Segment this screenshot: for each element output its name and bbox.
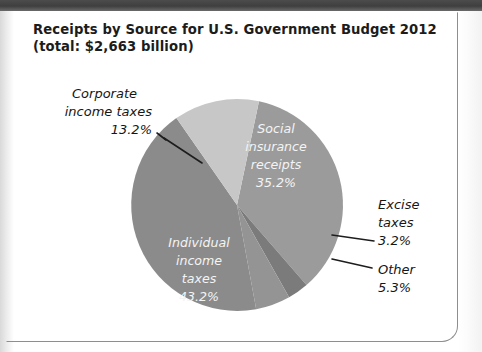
individual-income-value: 43.2% [179, 289, 219, 304]
social-insurance-line-2: insurance [245, 139, 307, 154]
individual-income-line-2: income [176, 253, 222, 268]
individual-income-line-1: Individual [168, 235, 230, 250]
corporate-income-value: 13.2% [111, 122, 152, 137]
pie-chart-svg: Social insurance receipts 35.2% Individu… [0, 0, 482, 352]
other-leader-line [332, 259, 372, 268]
label-other: Other 5.3% [332, 259, 417, 295]
social-insurance-line-1: Social [257, 121, 295, 136]
corporate-income-line-2: income taxes [65, 104, 153, 119]
figure-page: Receipts by Source for U.S. Government B… [0, 0, 482, 352]
individual-income-line-3: taxes [182, 271, 217, 286]
excise-taxes-line-2: taxes [378, 215, 414, 230]
other-value: 5.3% [378, 280, 411, 295]
corporate-income-line-1: Corporate [72, 86, 137, 101]
pie-chart: Social insurance receipts 35.2% Individu… [0, 0, 482, 352]
label-excise-taxes: Excise taxes 3.2% [332, 197, 419, 248]
excise-taxes-leader-line [332, 235, 374, 241]
excise-taxes-line-1: Excise [378, 197, 419, 212]
social-insurance-line-3: receipts [251, 157, 302, 172]
excise-taxes-value: 3.2% [378, 233, 411, 248]
other-line-1: Other [378, 262, 417, 277]
social-insurance-value: 35.2% [256, 175, 296, 190]
